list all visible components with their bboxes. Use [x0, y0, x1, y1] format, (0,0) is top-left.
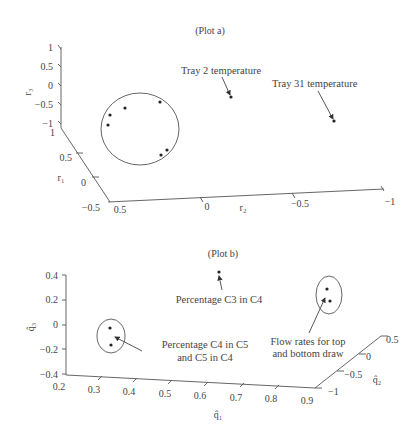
- arrow-tray31: [318, 91, 333, 119]
- annotation-flow-line1: Flow rates for top: [271, 336, 346, 347]
- arrow-tray2: [222, 77, 230, 95]
- annotation-c4-line2: and C5 in C4: [177, 352, 233, 363]
- chart-canvas: (Plot a) 1 0.5 0 −0.5 −1 r₃ 1 0.5 0 −0.5…: [0, 0, 420, 429]
- arrow-c3: [219, 276, 222, 290]
- svg-text:0.2: 0.2: [53, 381, 66, 392]
- figure: (Plot a) 1 0.5 0 −0.5 −1 r₃ 1 0.5 0 −0.5…: [0, 0, 420, 429]
- svg-text:0.9: 0.9: [301, 395, 314, 406]
- svg-text:0: 0: [366, 351, 371, 362]
- svg-text:0.8: 0.8: [265, 393, 278, 404]
- q1-ticks: 0.2 0.3 0.4 0.5 0.6 0.7 0.8 0.9: [53, 376, 314, 406]
- r2-axis: [108, 189, 384, 202]
- svg-text:0.3: 0.3: [88, 384, 101, 395]
- svg-text:0.2: 0.2: [46, 294, 59, 305]
- svg-text:0.4: 0.4: [46, 270, 59, 281]
- svg-text:−0.2: −0.2: [40, 344, 58, 355]
- arrow-c4: [115, 337, 142, 351]
- svg-text:0.5: 0.5: [60, 152, 73, 163]
- r1-ticks: 1 0.5 0 −0.5: [50, 127, 100, 213]
- annotation-c3-in-c4: Percentage C3 in C4: [176, 294, 263, 305]
- plot-a-title: (Plot a): [195, 25, 225, 37]
- svg-text:1: 1: [50, 127, 55, 138]
- svg-text:−0.5: −0.5: [82, 202, 100, 213]
- annotation-c4-line1: Percentage C4 in C5: [162, 339, 249, 350]
- annotation-flow-line2: and bottom draw: [272, 348, 344, 359]
- svg-text:−1: −1: [385, 196, 396, 207]
- svg-text:0: 0: [205, 201, 210, 212]
- svg-text:0: 0: [48, 80, 53, 91]
- svg-text:1: 1: [48, 42, 53, 53]
- c4-c5-cluster-ellipse: [97, 319, 125, 353]
- svg-text:0: 0: [53, 319, 58, 330]
- svg-text:−0.5: −0.5: [291, 198, 309, 209]
- cluster-circle: [101, 93, 179, 165]
- svg-text:0.5: 0.5: [114, 204, 127, 215]
- annotation-tray2: Tray 2 temperature: [181, 65, 261, 76]
- svg-text:0.4: 0.4: [123, 386, 136, 397]
- plot-a-points: [106, 95, 335, 156]
- q2-axis-label: q̂₂: [373, 374, 382, 385]
- r1-axis-label: r₁: [58, 172, 65, 183]
- q1-axis-label: q̂₁: [214, 409, 223, 420]
- svg-text:0.6: 0.6: [194, 390, 207, 401]
- r2-axis-label: r₂: [240, 202, 247, 213]
- svg-text:−1: −1: [328, 386, 339, 397]
- svg-text:0.5: 0.5: [41, 61, 54, 72]
- r3-ticks: 1 0.5 0 −0.5 −1: [35, 42, 61, 129]
- svg-text:0.5: 0.5: [159, 388, 172, 399]
- svg-text:0: 0: [81, 177, 86, 188]
- svg-text:−0.5: −0.5: [344, 369, 362, 380]
- annotation-tray31: Tray 31 temperature: [272, 78, 358, 89]
- svg-text:−0.4: −0.4: [40, 369, 58, 380]
- svg-text:−0.5: −0.5: [35, 99, 53, 110]
- r3-axis-label: r₃: [22, 89, 33, 96]
- svg-text:0.5: 0.5: [386, 334, 399, 345]
- q3-axis-label: q̂₃: [25, 323, 36, 332]
- q3-ticks: 0.4 0.2 0 −0.2 −0.4: [40, 270, 66, 380]
- svg-text:0.7: 0.7: [230, 392, 243, 403]
- plot-b-title: (Plot b): [208, 248, 238, 260]
